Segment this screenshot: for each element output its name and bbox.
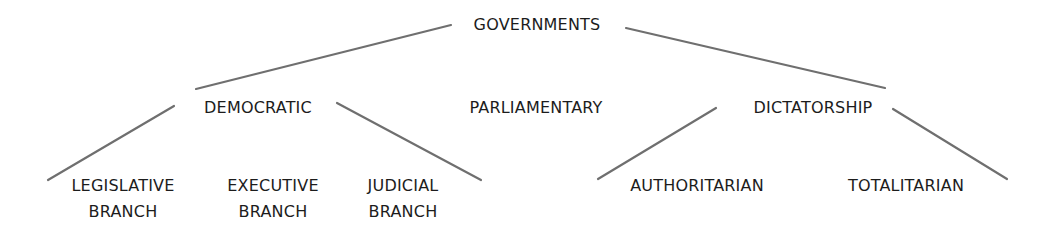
connector-democratic-legislative <box>48 106 174 180</box>
connector-dictatorship-authoritarian <box>598 108 716 179</box>
node-parliamentary: PARLIAMENTARY <box>469 95 602 121</box>
connector-governments-dictatorship <box>626 28 885 88</box>
government-hierarchy-diagram: GOVERNMENTS DEMOCRATIC PARLIAMENTARY DIC… <box>0 0 1051 247</box>
node-totalitarian: TOTALITARIAN <box>848 173 964 199</box>
connector-governments-democratic <box>196 25 451 89</box>
node-democratic: DEMOCRATIC <box>204 95 312 121</box>
node-judicial-branch: JUDICIAL BRANCH <box>368 173 439 225</box>
node-governments: GOVERNMENTS <box>474 12 601 38</box>
node-legislative-branch: LEGISLATIVE BRANCH <box>71 173 174 225</box>
node-authoritarian: AUTHORITARIAN <box>630 173 764 199</box>
node-dictatorship: DICTATORSHIP <box>754 95 873 121</box>
node-executive-branch: EXECUTIVE BRANCH <box>227 173 318 225</box>
connector-democratic-judicial <box>337 103 481 180</box>
connector-dictatorship-totalitarian <box>893 109 1007 179</box>
